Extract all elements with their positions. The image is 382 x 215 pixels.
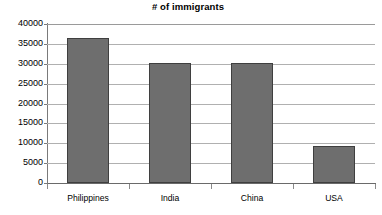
x-axis-category-label: China (211, 193, 293, 203)
bar-chart: # of immigrants 400003500030000250002000… (0, 0, 382, 215)
x-axis-category-separator (129, 184, 130, 189)
x-axis-category-separator (293, 184, 294, 189)
gridline (47, 24, 375, 25)
x-axis-category-label: India (129, 193, 211, 203)
y-axis-tick-label: 30000 (0, 59, 43, 68)
y-axis-tick-label: 5000 (0, 158, 43, 167)
y-axis-tick-label: 0 (0, 178, 43, 187)
bar (231, 63, 273, 183)
bar (149, 63, 191, 183)
bar (313, 146, 355, 183)
plot-area (47, 24, 375, 183)
bar (67, 38, 109, 183)
chart-title: # of immigrants (0, 1, 376, 13)
x-axis-category-label: Philippines (47, 193, 129, 203)
y-axis-tick-label: 10000 (0, 138, 43, 147)
y-axis-tick-label: 20000 (0, 99, 43, 108)
x-axis-category-label: USA (293, 193, 375, 203)
y-axis-tick-label: 15000 (0, 118, 43, 127)
y-axis-tick-label: 40000 (0, 19, 43, 28)
x-axis-category-separator (47, 184, 48, 189)
x-axis-category-separator (211, 184, 212, 189)
y-axis-tick-labels: 4000035000300002500020000150001000050000 (0, 0, 43, 215)
y-axis-tick-label: 25000 (0, 79, 43, 88)
x-axis-category-separator (375, 184, 376, 189)
y-axis-tick-label: 35000 (0, 39, 43, 48)
